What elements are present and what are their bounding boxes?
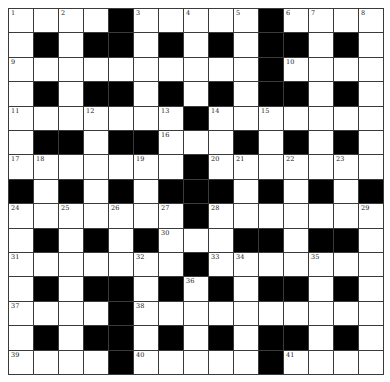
- cell-input[interactable]: [9, 107, 33, 130]
- crossword-cell[interactable]: [284, 302, 308, 325]
- crossword-cell[interactable]: [84, 253, 108, 276]
- crossword-cell[interactable]: [34, 253, 58, 276]
- crossword-cell[interactable]: [284, 229, 308, 252]
- cell-input[interactable]: [109, 58, 133, 81]
- cell-input[interactable]: [134, 351, 158, 374]
- crossword-cell[interactable]: 27: [159, 204, 183, 227]
- cell-input[interactable]: [259, 253, 283, 276]
- cell-input[interactable]: [334, 155, 358, 178]
- cell-input[interactable]: [234, 326, 258, 349]
- crossword-cell[interactable]: [109, 107, 133, 130]
- crossword-cell[interactable]: [309, 155, 333, 178]
- cell-input[interactable]: [234, 155, 258, 178]
- cell-input[interactable]: [84, 180, 108, 203]
- crossword-cell[interactable]: 8: [359, 9, 383, 32]
- crossword-cell[interactable]: [259, 131, 283, 154]
- cell-input[interactable]: [134, 277, 158, 300]
- crossword-cell[interactable]: [209, 302, 233, 325]
- cell-input[interactable]: [109, 155, 133, 178]
- crossword-cell[interactable]: 19: [134, 155, 158, 178]
- crossword-cell[interactable]: 21: [234, 155, 258, 178]
- cell-input[interactable]: [284, 155, 308, 178]
- cell-input[interactable]: [209, 351, 233, 374]
- cell-input[interactable]: [59, 253, 83, 276]
- crossword-cell[interactable]: [309, 302, 333, 325]
- cell-input[interactable]: [159, 58, 183, 81]
- cell-input[interactable]: [34, 107, 58, 130]
- crossword-cell[interactable]: [334, 107, 358, 130]
- crossword-cell[interactable]: [9, 33, 33, 56]
- crossword-cell[interactable]: [184, 326, 208, 349]
- cell-input[interactable]: [309, 277, 333, 300]
- cell-input[interactable]: [134, 180, 158, 203]
- crossword-cell[interactable]: [184, 58, 208, 81]
- crossword-cell[interactable]: [59, 107, 83, 130]
- cell-input[interactable]: [359, 58, 383, 81]
- crossword-cell[interactable]: [109, 253, 133, 276]
- cell-input[interactable]: [9, 351, 33, 374]
- crossword-cell[interactable]: [84, 180, 108, 203]
- cell-input[interactable]: [234, 180, 258, 203]
- cell-input[interactable]: [134, 204, 158, 227]
- crossword-cell[interactable]: [234, 302, 258, 325]
- crossword-cell[interactable]: 2: [59, 9, 83, 32]
- crossword-cell[interactable]: 34: [234, 253, 258, 276]
- cell-input[interactable]: [309, 302, 333, 325]
- crossword-cell[interactable]: 7: [309, 9, 333, 32]
- cell-input[interactable]: [334, 351, 358, 374]
- cell-input[interactable]: [309, 351, 333, 374]
- crossword-cell[interactable]: [184, 82, 208, 105]
- cell-input[interactable]: [59, 9, 83, 32]
- crossword-cell[interactable]: [234, 82, 258, 105]
- crossword-cell[interactable]: 3: [134, 9, 158, 32]
- crossword-cell[interactable]: [309, 326, 333, 349]
- crossword-cell[interactable]: [34, 302, 58, 325]
- crossword-cell[interactable]: [359, 326, 383, 349]
- crossword-cell[interactable]: [259, 253, 283, 276]
- cell-input[interactable]: [359, 277, 383, 300]
- cell-input[interactable]: [9, 155, 33, 178]
- cell-input[interactable]: [159, 302, 183, 325]
- crossword-cell[interactable]: [209, 58, 233, 81]
- cell-input[interactable]: [259, 204, 283, 227]
- cell-input[interactable]: [184, 9, 208, 32]
- crossword-cell[interactable]: 30: [159, 229, 183, 252]
- cell-input[interactable]: [359, 131, 383, 154]
- cell-input[interactable]: [9, 58, 33, 81]
- crossword-cell[interactable]: [309, 351, 333, 374]
- cell-input[interactable]: [59, 326, 83, 349]
- crossword-cell[interactable]: 6: [284, 9, 308, 32]
- crossword-cell[interactable]: [234, 204, 258, 227]
- crossword-cell[interactable]: [9, 277, 33, 300]
- cell-input[interactable]: [359, 229, 383, 252]
- cell-input[interactable]: [34, 155, 58, 178]
- cell-input[interactable]: [134, 326, 158, 349]
- cell-input[interactable]: [209, 9, 233, 32]
- crossword-cell[interactable]: [84, 9, 108, 32]
- cell-input[interactable]: [184, 33, 208, 56]
- cell-input[interactable]: [234, 107, 258, 130]
- crossword-cell[interactable]: 29: [359, 204, 383, 227]
- crossword-cell[interactable]: 40: [134, 351, 158, 374]
- cell-input[interactable]: [109, 253, 133, 276]
- cell-input[interactable]: [234, 82, 258, 105]
- crossword-cell[interactable]: [309, 277, 333, 300]
- cell-input[interactable]: [309, 107, 333, 130]
- crossword-cell[interactable]: [209, 9, 233, 32]
- crossword-cell[interactable]: [34, 9, 58, 32]
- crossword-cell[interactable]: [234, 107, 258, 130]
- crossword-cell[interactable]: [234, 58, 258, 81]
- cell-input[interactable]: [9, 9, 33, 32]
- crossword-cell[interactable]: [159, 351, 183, 374]
- crossword-cell[interactable]: [109, 58, 133, 81]
- cell-input[interactable]: [259, 107, 283, 130]
- crossword-cell[interactable]: 4: [184, 9, 208, 32]
- crossword-cell[interactable]: [34, 58, 58, 81]
- cell-input[interactable]: [359, 253, 383, 276]
- cell-input[interactable]: [159, 131, 183, 154]
- crossword-cell[interactable]: 26: [109, 204, 133, 227]
- cell-input[interactable]: [134, 33, 158, 56]
- crossword-cell[interactable]: [84, 204, 108, 227]
- cell-input[interactable]: [84, 155, 108, 178]
- cell-input[interactable]: [359, 9, 383, 32]
